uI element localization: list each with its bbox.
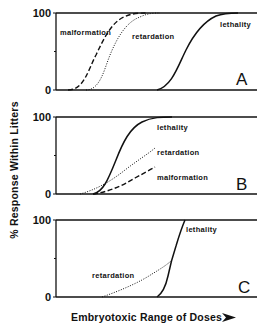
x-axis-title: Embryotoxic Range of Doses xyxy=(71,311,222,323)
y-axis-title: % Response Within Litters xyxy=(8,101,20,238)
panel-a: 100 0 malformation retardation lethality… xyxy=(33,7,257,96)
arrow-right-icon xyxy=(222,313,236,322)
panel-c-lethality-label: lethality xyxy=(186,225,218,234)
panel-b-malformation-curve xyxy=(93,167,155,194)
panel-c-tick-100: 100 xyxy=(33,214,51,226)
panel-a-tick-100: 100 xyxy=(33,7,51,19)
panel-b-tick-100: 100 xyxy=(33,111,51,123)
panel-c-lethality-curve xyxy=(157,220,185,297)
panel-c: 100 0 retardation lethality C xyxy=(33,214,257,303)
panel-a-retardation-curve xyxy=(86,13,160,90)
panel-b-letter: B xyxy=(236,175,247,194)
panel-a-tick-0: 0 xyxy=(45,84,51,96)
panel-c-retardation-label: retardation xyxy=(92,271,135,280)
panel-a-malformation-curve xyxy=(68,13,146,90)
panel-a-letter: A xyxy=(236,70,248,89)
panel-c-letter: C xyxy=(238,278,250,297)
panel-b-lethality-label: lethality xyxy=(157,123,189,132)
panel-b-malformation-label: malformation xyxy=(157,173,208,182)
panel-a-malformation-label: malformation xyxy=(60,28,111,37)
panel-c-tick-0: 0 xyxy=(45,291,51,303)
panel-b-tick-0: 0 xyxy=(45,188,51,200)
figure: % Response Within Litters 100 0 malforma… xyxy=(0,0,269,330)
panel-b-retardation-label: retardation xyxy=(157,148,200,157)
panel-a-lethality-label: lethality xyxy=(220,20,252,29)
panel-a-retardation-label: retardation xyxy=(132,32,175,41)
panel-b: 100 0 lethality retardation malformation… xyxy=(33,111,257,200)
